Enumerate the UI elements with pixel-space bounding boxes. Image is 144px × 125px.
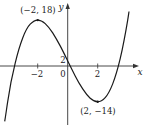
max-point-marker [37,19,39,21]
x-tick-label-neg2: −2 [31,69,44,79]
x-tick-label-0: 0 [60,69,65,79]
y-intercept-label: 2 [60,55,65,65]
y-axis-label: y [57,2,64,12]
min-point-label: (2, −14) [80,106,115,116]
max-point-label: (−2, 18) [20,5,55,15]
y-axis-arrow-icon [66,3,70,9]
function-graph: (−2, 18) (2, −14) y x −2 0 2 2 [0,0,144,125]
min-point-marker [97,101,99,103]
x-axis-label: x [137,67,142,77]
x-tick-label-2: 2 [95,69,100,79]
